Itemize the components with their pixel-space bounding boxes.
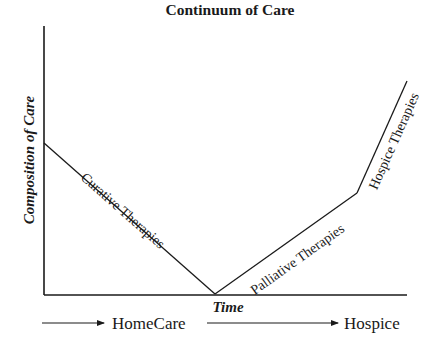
continuum-of-care-diagram: Continuum of Care Composition of Care Ti… [0, 0, 445, 350]
stage-hospice-label: Hospice [344, 314, 400, 333]
curative-therapies-label: Curative Therapies [78, 170, 168, 252]
x-axis-label: Time [212, 299, 243, 315]
y-axis-label: Composition of Care [21, 95, 37, 224]
hospice-therapies-label: Hospice Therapies [366, 90, 422, 191]
diagram-title: Continuum of Care [166, 1, 295, 18]
stage-homecare-label: HomeCare [112, 314, 186, 333]
palliative-therapies-line [215, 193, 357, 294]
